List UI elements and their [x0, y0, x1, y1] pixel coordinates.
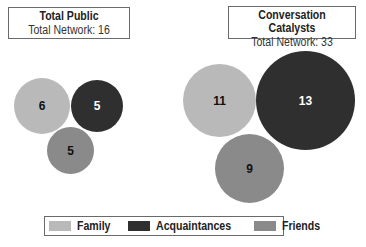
total-public-title-box: Total Public Total Network: 16	[8, 7, 130, 39]
acquaintances-circle: 5	[71, 80, 123, 132]
circle-value: 6	[39, 99, 46, 113]
circle-value: 13	[299, 94, 312, 108]
family-circle: 6	[14, 78, 70, 134]
friends-swatch-icon	[254, 221, 276, 231]
panel-title: Total Public	[16, 10, 122, 23]
circle-value: 11	[213, 94, 226, 108]
panel-subtitle: Total Network: 33	[237, 35, 348, 49]
conversation-catalysts-title-box: Conversation Catalysts Total Network: 33	[228, 6, 356, 39]
legend-label: Acquaintances	[156, 219, 231, 233]
legend: Family Acquaintances Friends	[44, 216, 284, 236]
acquaintances-circle: 13	[256, 51, 355, 150]
friends-circle: 9	[215, 134, 284, 203]
legend-label: Friends	[282, 219, 320, 233]
friends-circle: 5	[47, 127, 94, 174]
legend-label: Family	[77, 219, 110, 233]
acquaintances-swatch-icon	[128, 221, 150, 231]
circle-value: 9	[246, 162, 253, 176]
circle-value: 5	[94, 99, 101, 113]
family-swatch-icon	[49, 221, 71, 231]
legend-item-family: Family	[49, 219, 115, 233]
legend-item-acquaintances: Acquaintances	[128, 219, 241, 233]
legend-item-friends: Friends	[254, 219, 325, 233]
family-circle: 11	[183, 64, 256, 137]
panel-title: Conversation Catalysts	[237, 9, 348, 35]
circle-value: 5	[67, 144, 74, 158]
panel-subtitle: Total Network: 16	[16, 23, 122, 37]
